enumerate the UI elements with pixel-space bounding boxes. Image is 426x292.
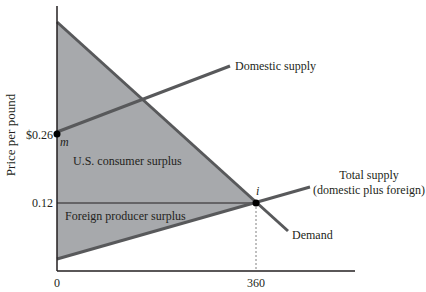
consumer-surplus-label: U.S. consumer surplus [73, 154, 182, 168]
point-m-label: m [60, 135, 69, 149]
demand-label: Demand [292, 228, 333, 242]
y-axis-label: Price per pound [3, 93, 18, 176]
total-supply-label-line1: Total supply [339, 168, 399, 182]
y-tick-026: $0.26 [26, 128, 53, 142]
total-supply-label-line2: (domestic plus foreign) [313, 183, 425, 197]
surplus-chart: Price per pound $0.26 0.12 0 360 m i Dom… [0, 0, 426, 292]
x-tick-0: 0 [54, 276, 60, 290]
producer-surplus-label: Foreign producer surplus [65, 209, 186, 223]
point-i-marker [253, 200, 260, 207]
point-i-label: i [256, 184, 259, 198]
domestic-supply-label: Domestic supply [235, 59, 316, 73]
x-tick-360: 360 [247, 276, 265, 290]
y-tick-012: 0.12 [32, 196, 53, 210]
